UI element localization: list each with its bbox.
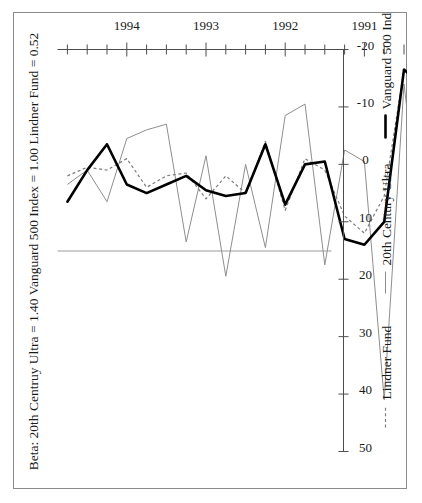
value-tick-label: -10: [356, 94, 373, 109]
rotated-chart-wrapper: Beta: 20th Centruy Ultra = 1.40 Vanguard…: [13, 12, 407, 489]
value-tick-label: 0: [362, 152, 369, 167]
figure-page: Beta: 20th Centruy Ultra = 1.40 Vanguard…: [0, 0, 422, 503]
value-tick-label: 50: [359, 439, 372, 454]
time-tick-label: 1991: [351, 18, 377, 33]
time-tick-label: 1994: [113, 18, 140, 33]
legend-label-vanguard-500-index[interactable]: Vanguard 500 Index: [378, 12, 393, 109]
value-axis: 50403020100-10-20: [338, 37, 374, 454]
chart-title: Beta: 20th Centruy Ultra = 1.40 Vanguard…: [25, 32, 40, 470]
time-tick-label: 1993: [193, 18, 219, 33]
series-lindner-fund: [67, 69, 407, 233]
line-chart-svg: Beta: 20th Centruy Ultra = 1.40 Vanguard…: [13, 12, 407, 489]
value-tick-label: 20: [359, 267, 372, 282]
time-tick-label: 1992: [272, 18, 298, 33]
value-tick-label: 40: [359, 382, 372, 397]
legend-label-lindner-fund[interactable]: Lindner Fund: [378, 325, 393, 399]
value-tick-label: 10: [359, 209, 372, 224]
legend-label-20th-century-ultra[interactable]: 20th Century Ultra: [378, 163, 393, 265]
time-axis-tick-labels: 19901991199219931994: [113, 18, 407, 33]
chart-legend: Lindner Fund 20th Century Ultra Vanguard…: [378, 12, 393, 427]
chart-canvas: Beta: 20th Centruy Ultra = 1.40 Vanguard…: [13, 12, 407, 489]
time-axis: 19901991199219931994: [57, 18, 407, 56]
value-tick-label: -20: [356, 37, 373, 52]
value-tick-label: 30: [359, 324, 372, 339]
